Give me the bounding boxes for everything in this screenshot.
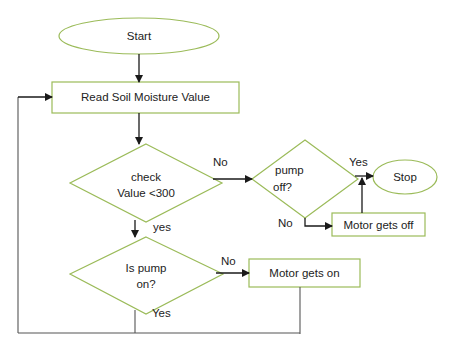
stop-label: Stop bbox=[373, 170, 437, 184]
pump-on-yes-label: Yes bbox=[152, 306, 171, 320]
read-label: Read Soil Moisture Value bbox=[52, 90, 239, 104]
pump-off-label-line2: off? bbox=[266, 180, 333, 194]
check-yes-label: yes bbox=[153, 220, 171, 234]
motor-off-label: Motor gets off bbox=[332, 218, 425, 232]
is-pump-on-diamond bbox=[70, 237, 223, 314]
check-no-label: No bbox=[213, 155, 228, 169]
pump-on-no-label: No bbox=[221, 254, 236, 268]
pump-off-diamond bbox=[252, 140, 358, 218]
pump-on-label-line1: Is pump bbox=[106, 261, 186, 275]
pump-off-label-line1: pump bbox=[266, 163, 335, 177]
motor-on-label: Motor gets on bbox=[249, 266, 360, 280]
pump-off-no-arrow bbox=[305, 218, 332, 226]
pump-off-no-label: No bbox=[278, 216, 293, 230]
pump-on-label-line2: on? bbox=[106, 277, 186, 291]
start-label: Start bbox=[99, 29, 179, 43]
check-label-line1: check bbox=[96, 170, 196, 184]
check-label-line2: Value <300 bbox=[96, 186, 196, 200]
pump-off-yes-label: Yes bbox=[349, 155, 368, 169]
